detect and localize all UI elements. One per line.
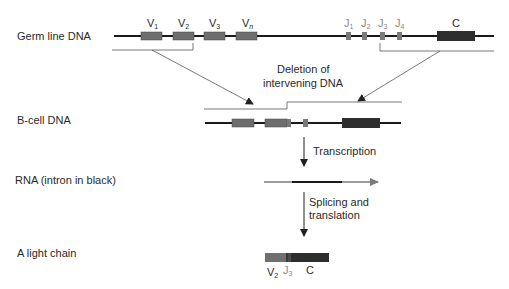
c-segment (437, 31, 475, 41)
j2-segment (362, 32, 367, 40)
germline-dna-label: Germ line DNA (17, 30, 92, 42)
light-chain-row: V2 J3 C (265, 253, 329, 279)
v1-segment (141, 32, 162, 40)
light-chain-c-label: C (306, 264, 314, 276)
deletion-label-line2: intervening DNA (263, 77, 344, 89)
v2-segment (173, 32, 194, 40)
splicing-label-line2: translation (309, 209, 360, 221)
light-chain-label: A light chain (17, 247, 76, 259)
v3-segment (204, 32, 225, 40)
bcell-dna-row (204, 102, 402, 128)
bcell-bracket (204, 102, 402, 109)
j1-label: J1 (344, 17, 354, 30)
v3-label: V3 (209, 17, 220, 30)
bcell-v1-segment (232, 119, 254, 127)
bcell-j4-segment (303, 119, 308, 127)
rna-label: RNA (intron in black) (15, 174, 116, 186)
j4-segment (397, 32, 402, 40)
light-chain-v-label: V2 (267, 266, 278, 279)
j1-segment (346, 32, 351, 40)
vn-segment (236, 32, 257, 40)
right-bracket (380, 43, 494, 51)
vn-label: Vn (242, 17, 253, 30)
left-converge-arrow (152, 50, 253, 104)
bcell-c-segment (342, 118, 380, 128)
deletion-label-line1: Deletion of (277, 63, 331, 75)
v2-label: V2 (178, 17, 189, 30)
j3-label: J3 (378, 17, 388, 30)
germline-dna-row: V1 V2 V3 Vn J1 J2 J3 J4 C (112, 17, 494, 51)
splicing-label-line1: Splicing and (309, 196, 369, 208)
light-chain-c-region (291, 253, 329, 262)
c-label: C (452, 17, 460, 29)
j3-segment (380, 32, 385, 40)
light-chain-j-label: J3 (283, 264, 293, 277)
bcell-j3-segment (287, 119, 291, 127)
j4-label: J4 (395, 17, 405, 30)
transcription-label: Transcription (313, 145, 376, 157)
vdj-recombination-diagram: Germ line DNA B-cell DNA RNA (intron in … (0, 0, 509, 289)
j2-label: J2 (361, 17, 371, 30)
left-bracket (112, 43, 193, 50)
light-chain-v-region (265, 253, 287, 262)
v1-label: V1 (147, 17, 158, 30)
right-converge-arrow (358, 51, 440, 101)
bcell-v2-segment (265, 119, 287, 127)
bcell-dna-label: B-cell DNA (17, 114, 71, 126)
